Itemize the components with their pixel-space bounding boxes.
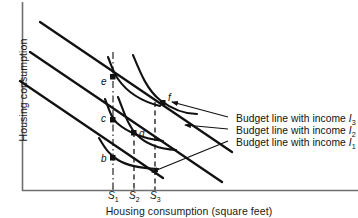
x-axis-title: Housing consumption (square feet) [24, 205, 354, 217]
x-tick-label-s3: S3 [150, 190, 161, 203]
point-marker-b [110, 155, 116, 161]
budget-lines-group [20, 22, 232, 182]
point-label-d: d [139, 128, 145, 139]
chart-plot-area [0, 0, 358, 218]
legend-item-income-2-text: Budget line with income [236, 125, 349, 136]
legend-item-income-3-text: Budget line with income [236, 113, 349, 124]
x-tick-label-s2-base: S [129, 190, 136, 201]
leader-line-income-1 [152, 141, 228, 172]
x-tick-label-s2: S2 [129, 190, 140, 203]
leader-line-income-3 [172, 102, 228, 117]
x-tick-label-s2-sub: 2 [136, 196, 140, 203]
x-tick-label-s1-sub: 1 [115, 196, 119, 203]
point-marker-c [110, 117, 116, 123]
y-axis-title: Housing consumption [17, 20, 29, 160]
x-tick-label-s3-base: S [150, 190, 157, 201]
leader-line-income-2 [185, 125, 228, 129]
indifference-curves-group [99, 55, 197, 169]
legend-item-income-1-sub: 1 [352, 142, 356, 151]
point-label-c: c [101, 113, 106, 124]
housing-consumption-chart: Housing consumption Housing consumption … [0, 0, 358, 218]
point-label-f: f [168, 92, 171, 103]
x-tick-label-s1: S1 [108, 190, 119, 203]
x-tick-label-s3-sub: 3 [157, 196, 161, 203]
legend-item-income-1-text: Budget line with income [236, 137, 349, 148]
x-tick-label-s1-base: S [108, 190, 115, 201]
axes-group [22, 2, 358, 191]
legend-item-income-1: Budget line with income I1 [236, 137, 356, 151]
point-marker-d [131, 130, 137, 136]
point-marker-f [160, 100, 166, 106]
point-marker-e [110, 74, 116, 80]
point-label-b: b [101, 153, 107, 164]
point-label-e: e [101, 76, 107, 87]
